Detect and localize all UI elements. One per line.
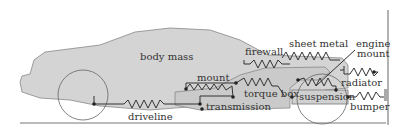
label-torque-box: torque box — [244, 89, 299, 99]
car-diagram — [0, 0, 409, 136]
label-sheet-metal: sheet metal — [289, 39, 348, 49]
label-driveline: driveline — [128, 112, 173, 122]
label-bumper: bumper — [350, 102, 389, 112]
label-firewall: firewall — [245, 47, 283, 57]
label-transmission: transmission — [206, 102, 271, 112]
bumper-block — [384, 89, 388, 101]
label-body-mass: body mass — [140, 52, 193, 62]
label-mount: mount — [197, 73, 229, 83]
label-radiator: radiator — [341, 78, 382, 88]
label-suspension: suspension — [299, 92, 355, 102]
label-engine-mount: mount — [357, 49, 389, 59]
